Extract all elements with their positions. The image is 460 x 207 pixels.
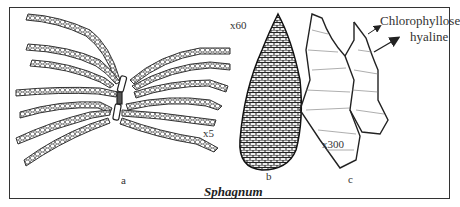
magnification-a: x5 — [203, 127, 214, 139]
magnification-b: x60 — [230, 19, 247, 31]
label-chlorophyllose: Chlorophyllose — [380, 13, 460, 29]
panel-c-striations — [306, 30, 384, 150]
panel-label-a: a — [121, 174, 126, 186]
panel-c-cells — [300, 14, 388, 168]
arrow-chlorophyllose — [368, 26, 380, 34]
panel-label-c: c — [348, 173, 353, 185]
label-hyaline: hyaline — [410, 29, 448, 45]
panel-label-b: b — [266, 170, 272, 182]
arrow-hyaline — [374, 38, 398, 52]
panel-b-leaf — [240, 14, 301, 170]
magnification-c: x300 — [322, 138, 344, 150]
figure-caption: Sphagnum — [204, 184, 263, 200]
